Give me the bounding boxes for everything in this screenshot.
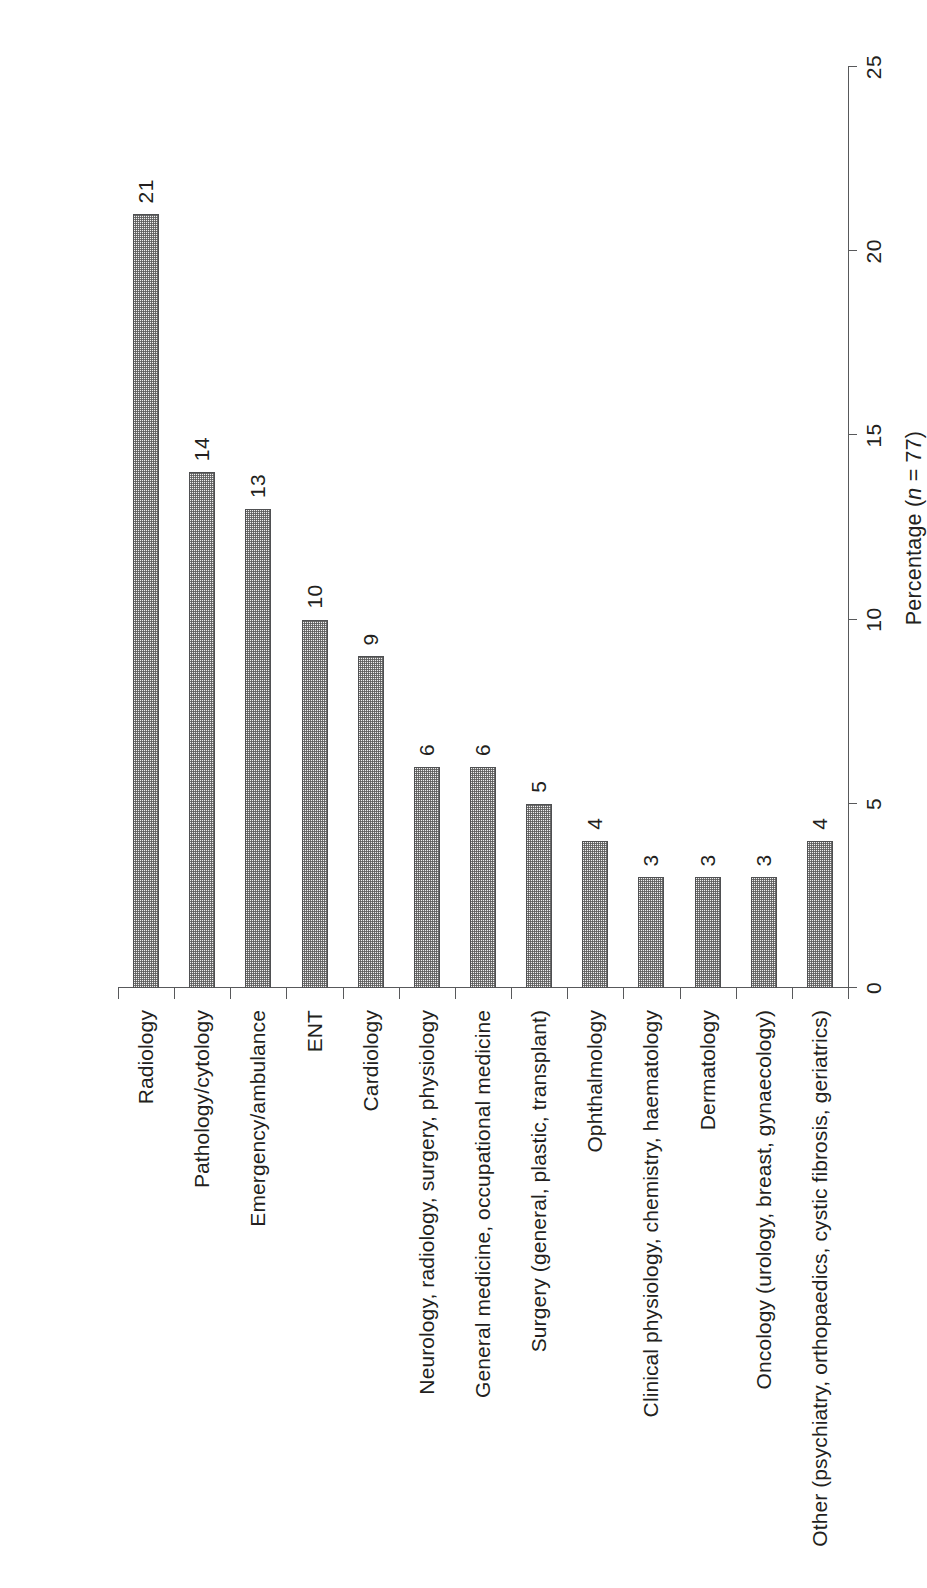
value-axis-line (848, 67, 849, 988)
value-axis-title-prefix: Percentage ( (902, 500, 926, 626)
bar-value-label: 3 (639, 854, 663, 866)
bar (695, 877, 721, 988)
bar (302, 620, 328, 988)
category-label: Neurology, radiology, surgery, physiolog… (415, 1010, 439, 1395)
bar (807, 841, 833, 988)
value-tick-label: 25 (862, 55, 886, 79)
bar (189, 472, 215, 988)
value-tick (848, 803, 857, 804)
value-tick-label: 15 (862, 423, 886, 447)
bar (245, 509, 271, 988)
category-tick (118, 988, 119, 999)
bar-value-label: 14 (190, 437, 214, 461)
bar (470, 767, 496, 988)
value-tick (848, 434, 857, 435)
value-tick-label: 0 (862, 982, 886, 994)
bar-value-label: 9 (359, 633, 383, 645)
bar-value-label: 4 (583, 817, 607, 829)
category-label: General medicine, occupational medicine (471, 1010, 495, 1398)
category-label: Cardiology (359, 1010, 383, 1111)
bar-value-label: 3 (752, 854, 776, 866)
category-tick (567, 988, 568, 999)
bar (582, 841, 608, 988)
value-tick (848, 987, 857, 988)
category-tick (511, 988, 512, 999)
bar (638, 877, 664, 988)
value-tick-label: 10 (862, 607, 886, 631)
value-axis-title: Percentage (n = 77) (902, 431, 927, 625)
value-tick-label: 5 (862, 798, 886, 810)
bar-value-label: 6 (471, 744, 495, 756)
bar-value-label: 21 (134, 179, 158, 203)
bar-value-label: 5 (527, 781, 551, 793)
bar (358, 656, 384, 988)
category-tick (680, 988, 681, 999)
category-label: Oncology (urology, breast, gynaecology) (752, 1010, 776, 1389)
category-label: Other (psychiatry, orthopaedics, cystic … (808, 1010, 832, 1547)
value-axis-title-italic-n: n (902, 488, 926, 500)
category-tick (286, 988, 287, 999)
category-label: Emergency/ambulance (246, 1010, 270, 1227)
value-tick (848, 619, 857, 620)
bar (526, 804, 552, 988)
bar-value-label: 10 (303, 584, 327, 608)
category-tick (399, 988, 400, 999)
bar (414, 767, 440, 988)
category-tick (343, 988, 344, 999)
category-tick (848, 988, 849, 999)
value-axis-title-suffix: = 77) (902, 431, 926, 488)
bar (133, 214, 159, 988)
bar-value-label: 6 (415, 744, 439, 756)
category-tick (174, 988, 175, 999)
category-label: ENT (303, 1010, 327, 1052)
value-tick (848, 250, 857, 251)
category-tick (736, 988, 737, 999)
category-label: Radiology (134, 1010, 158, 1104)
category-tick (623, 988, 624, 999)
category-tick (455, 988, 456, 999)
bar-value-label: 13 (246, 474, 270, 498)
value-tick (848, 66, 857, 67)
category-label: Ophthalmology (583, 1010, 607, 1153)
bar-value-label: 4 (808, 817, 832, 829)
category-label: Surgery (general, plastic, transplant) (527, 1010, 551, 1352)
category-label: Pathology/cytology (190, 1010, 214, 1188)
category-tick (792, 988, 793, 999)
value-tick-label: 20 (862, 239, 886, 263)
category-tick (230, 988, 231, 999)
bar-value-label: 3 (696, 854, 720, 866)
bar (751, 877, 777, 988)
category-label: Clinical physiology, chemistry, haematol… (639, 1010, 663, 1417)
category-label: Dermatology (696, 1010, 720, 1130)
